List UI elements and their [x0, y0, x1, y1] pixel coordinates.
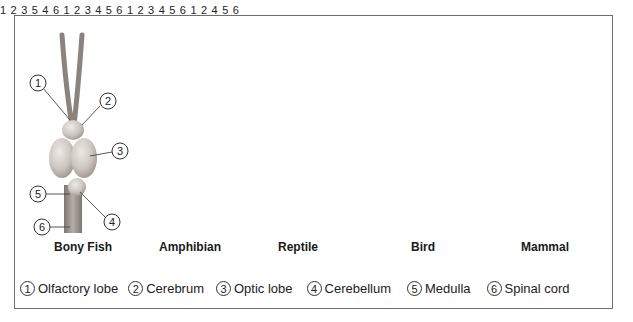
number-3-icon: 3	[216, 281, 231, 296]
number-4-icon: 4	[307, 281, 322, 296]
svg-text:5: 5	[35, 188, 41, 200]
number-2-icon: 2	[128, 281, 143, 296]
legend-label: Spinal cord	[505, 281, 570, 296]
legend-item-cerebellum: 4 Cerebellum	[307, 281, 391, 296]
caption-mammal: Mammal	[490, 240, 600, 254]
legend-label: Cerebellum	[325, 281, 391, 296]
svg-text:1: 1	[35, 77, 41, 89]
caption-reptile: Reptile	[243, 240, 353, 254]
legend-label: Cerebrum	[146, 281, 204, 296]
brains-illustration: 1 2 3 5 4 6	[0, 0, 633, 322]
bony-fish-brain	[49, 35, 97, 233]
caption-bird: Bird	[368, 240, 478, 254]
legend: 1 Olfactory lobe 2 Cerebrum 3 Optic lobe…	[20, 281, 580, 296]
svg-text:2: 2	[105, 95, 111, 107]
legend-label: Optic lobe	[234, 281, 293, 296]
svg-text:4: 4	[109, 216, 115, 228]
svg-text:3: 3	[117, 145, 123, 157]
legend-item-optic-lobe: 3 Optic lobe	[216, 281, 293, 296]
legend-item-olfactory-lobe: 1 Olfactory lobe	[20, 281, 118, 296]
number-6-icon: 6	[487, 281, 502, 296]
legend-label: Olfactory lobe	[38, 281, 118, 296]
caption-amphibian: Amphibian	[135, 240, 245, 254]
caption-bony-fish: Bony Fish	[28, 240, 138, 254]
number-5-icon: 5	[407, 281, 422, 296]
legend-item-spinal-cord: 6 Spinal cord	[487, 281, 570, 296]
svg-text:6: 6	[39, 221, 45, 233]
legend-label: Medulla	[425, 281, 471, 296]
number-1-icon: 1	[20, 281, 35, 296]
legend-item-medulla: 5 Medulla	[407, 281, 471, 296]
legend-item-cerebrum: 2 Cerebrum	[128, 281, 204, 296]
